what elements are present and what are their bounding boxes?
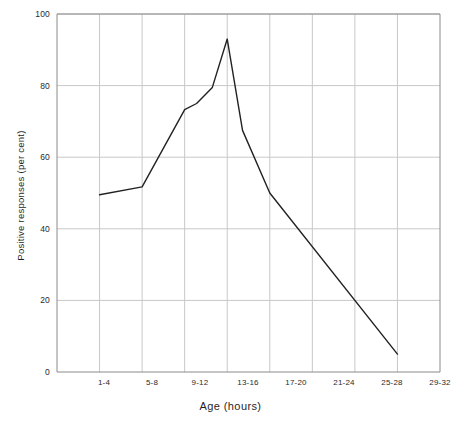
chart-figure: Positive responses (per cent) Age (hours… xyxy=(0,0,461,430)
grid-lines xyxy=(57,14,440,372)
axis-frame xyxy=(57,14,440,372)
plot-area xyxy=(0,0,461,430)
data-series-line xyxy=(100,39,398,354)
